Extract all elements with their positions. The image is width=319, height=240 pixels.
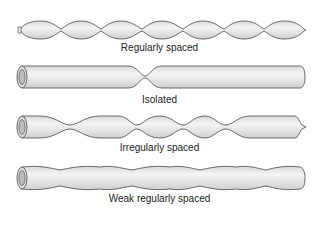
irregularly-spaced-tube [17, 116, 306, 138]
label-regularly-spaced: Regularly spaced [0, 42, 319, 54]
regularly-spaced-tube [18, 21, 306, 39]
weak-regularly-spaced-tube [17, 166, 305, 189]
label-irregularly-spaced: Irregularly spaced [0, 142, 319, 154]
label-isolated: Isolated [0, 94, 319, 106]
label-weak-regularly-spaced: Weak regularly spaced [0, 193, 319, 205]
isolated-tube [17, 66, 305, 88]
